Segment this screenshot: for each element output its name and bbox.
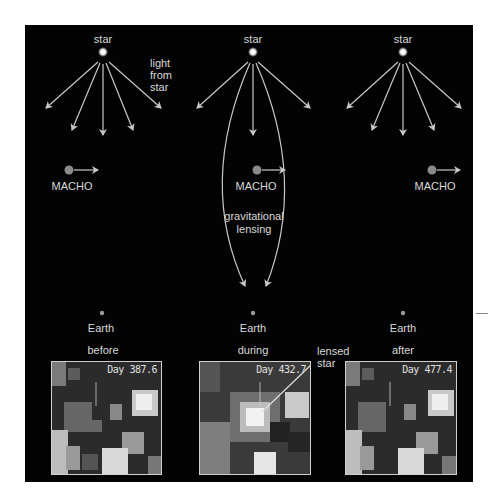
light-rays bbox=[347, 62, 461, 135]
macho-icon bbox=[65, 166, 74, 175]
day-timestamp: Day 387.6 bbox=[107, 364, 157, 375]
earth-icon bbox=[100, 311, 104, 315]
page-divider-line bbox=[476, 313, 488, 314]
star-field-image bbox=[346, 362, 456, 474]
earth-label: Earth bbox=[240, 322, 266, 334]
star-field-image bbox=[200, 362, 310, 474]
lensing-label-line2: lensing bbox=[237, 223, 272, 235]
lensing-label-line1: gravitational bbox=[224, 210, 283, 222]
light-from-star-label: light from star bbox=[150, 57, 172, 93]
star-label: star bbox=[94, 33, 112, 45]
macho-label: MACHO bbox=[52, 180, 93, 192]
macho-icon bbox=[428, 166, 437, 175]
day-timestamp: Day 477.4 bbox=[402, 364, 452, 375]
star-icon bbox=[398, 47, 408, 57]
light-rays bbox=[46, 62, 161, 135]
macho-label: MACHO bbox=[415, 180, 456, 192]
macho-label: MACHO bbox=[236, 180, 277, 192]
callout-lensed: lensed bbox=[317, 345, 349, 357]
star-icon bbox=[98, 47, 108, 57]
telescope-image-during: Day 432.7 bbox=[199, 361, 311, 475]
phase-label-during: during bbox=[238, 344, 269, 356]
light-rays bbox=[197, 62, 310, 286]
phase-label-before: before bbox=[87, 344, 118, 356]
callout-star: star bbox=[317, 357, 335, 369]
earth-icon bbox=[401, 311, 405, 315]
phase-label-after: after bbox=[392, 344, 414, 356]
earth-icon bbox=[251, 311, 255, 315]
star-icon bbox=[248, 47, 258, 57]
telescope-image-after: Day 477.4 bbox=[345, 361, 457, 475]
star-label: star bbox=[244, 33, 262, 45]
earth-label: Earth bbox=[88, 322, 114, 334]
macho-icon bbox=[253, 166, 262, 175]
earth-label: Earth bbox=[390, 322, 416, 334]
telescope-image-before: Day 387.6 bbox=[51, 361, 162, 475]
day-timestamp: Day 432.7 bbox=[256, 364, 306, 375]
star-field-image bbox=[52, 362, 161, 474]
star-label: star bbox=[394, 33, 412, 45]
